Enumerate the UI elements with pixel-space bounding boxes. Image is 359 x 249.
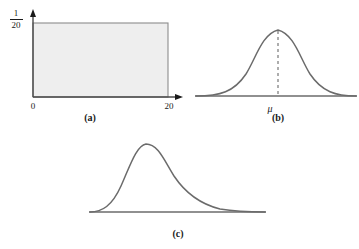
caption-panel-c: (c) bbox=[158, 228, 198, 239]
fraction-denominator: 20 bbox=[3, 21, 29, 30]
y-axis-fraction-label: 1 20 bbox=[3, 9, 29, 30]
x-axis-arrowhead-icon bbox=[175, 94, 183, 100]
x-tick-label-0: 0 bbox=[25, 101, 41, 111]
caption-panel-a: (a) bbox=[70, 112, 110, 123]
caption-panel-b: (b) bbox=[258, 112, 298, 123]
skewed-curve-path bbox=[90, 144, 265, 212]
y-axis-arrowhead-icon bbox=[30, 9, 36, 17]
uniform-density-rectangle bbox=[33, 23, 168, 97]
normal-curve-path bbox=[196, 30, 356, 96]
fraction-numerator: 1 bbox=[3, 9, 29, 18]
x-tick-label-20: 20 bbox=[159, 101, 179, 111]
figure-three-distributions: 1 20 0 20 μ (a) (b) (c) bbox=[0, 0, 359, 249]
